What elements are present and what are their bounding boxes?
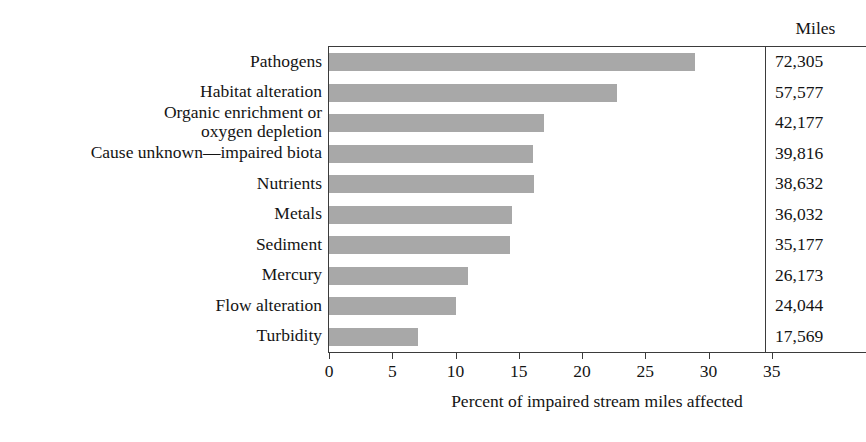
miles-column-values: 72,30557,57742,17739,81638,63236,03235,1… — [775, 47, 866, 352]
x-axis-tick-label: 15 — [499, 361, 539, 382]
category-label: Flow alteration — [0, 296, 322, 315]
bar — [329, 145, 533, 163]
category-label: Cause unknown—impaired biota — [0, 143, 322, 162]
miles-value: 42,177 — [775, 113, 866, 132]
x-axis-tick-label: 5 — [372, 361, 412, 382]
x-axis-tick-label: 10 — [436, 361, 476, 382]
bar — [329, 236, 510, 254]
x-axis-title: Percent of impaired stream miles affecte… — [328, 391, 866, 412]
bar — [329, 114, 544, 132]
miles-column-header: Miles — [765, 18, 866, 39]
bar — [329, 206, 512, 224]
x-axis-tick — [709, 352, 710, 359]
x-axis-tick-label: 25 — [625, 361, 665, 382]
category-axis-labels: PathogensHabitat alterationOrganic enric… — [0, 47, 322, 352]
category-label: Habitat alteration — [0, 82, 322, 101]
x-axis-tick-label: 30 — [689, 361, 729, 382]
x-axis-tick-label: 0 — [309, 361, 349, 382]
x-axis-tick — [645, 352, 646, 359]
miles-value: 26,173 — [775, 266, 866, 285]
category-label: Metals — [0, 204, 322, 223]
miles-value: 38,632 — [775, 174, 866, 193]
bar — [329, 267, 468, 285]
miles-value: 72,305 — [775, 52, 866, 71]
x-axis-tick-label: 20 — [562, 361, 602, 382]
x-axis-tick — [582, 352, 583, 359]
x-axis-tick — [519, 352, 520, 359]
miles-value: 36,032 — [775, 205, 866, 224]
x-axis-tick-label: 35 — [752, 361, 792, 382]
bar — [329, 53, 695, 71]
miles-column-divider — [765, 46, 766, 353]
category-label: Pathogens — [0, 52, 322, 71]
miles-value: 57,577 — [775, 83, 866, 102]
category-label: Nutrients — [0, 174, 322, 193]
x-axis-tick — [392, 352, 393, 359]
miles-value: 17,569 — [775, 327, 866, 346]
bar — [329, 84, 617, 102]
category-label: Mercury — [0, 265, 322, 284]
bar — [329, 297, 456, 315]
x-axis-tick — [329, 352, 330, 359]
bar — [329, 175, 534, 193]
miles-value: 24,044 — [775, 296, 866, 315]
bar — [329, 328, 418, 346]
x-axis-tick — [456, 352, 457, 359]
x-axis-tick — [772, 352, 773, 359]
category-label: Sediment — [0, 235, 322, 254]
miles-value: 39,816 — [775, 144, 866, 163]
miles-value: 35,177 — [775, 235, 866, 254]
bar-chart: PathogensHabitat alterationOrganic enric… — [0, 0, 866, 442]
x-axis-line — [328, 352, 866, 353]
category-label: Organic enrichment or oxygen depletion — [0, 103, 322, 141]
category-label: Turbidity — [0, 326, 322, 345]
